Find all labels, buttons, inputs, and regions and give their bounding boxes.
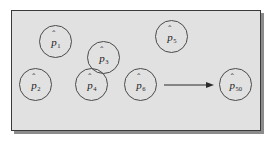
arrow-shaft [164,85,208,86]
node-subscript-p6: 6 [142,85,145,92]
node-p6: p6 [124,68,157,101]
node-subscript-p4: 4 [93,85,96,92]
arrow-head-icon [206,82,214,88]
node-subscript-p5: 5 [173,37,176,44]
node-p5: p5 [155,20,188,53]
node-label-p2: p2 [31,80,40,91]
node-label-p50: p50 [230,80,242,91]
node-label-p3: p3 [99,53,108,64]
node-subscript-p1: 1 [57,42,60,49]
node-p50: p50 [219,68,252,101]
node-label-p5: p5 [167,32,176,43]
diagram-plot-area: p1 p3 p5 p2 p4 p6 p50 [12,11,260,130]
node-label-p1: p1 [51,37,60,48]
continuation-arrow [164,81,214,89]
node-label-p6: p6 [136,80,145,91]
node-p4: p4 [75,68,108,101]
node-subscript-p3: 3 [105,58,108,65]
node-p1: p1 [39,25,72,58]
figure-root: p1 p3 p5 p2 p4 p6 p50 [0,0,272,146]
node-subscript-p50: 50 [236,85,243,92]
node-label-p4: p4 [87,80,96,91]
node-p2: p2 [19,68,52,101]
diagram-panel: p1 p3 p5 p2 p4 p6 p50 [11,10,261,131]
node-subscript-p2: 2 [37,85,40,92]
